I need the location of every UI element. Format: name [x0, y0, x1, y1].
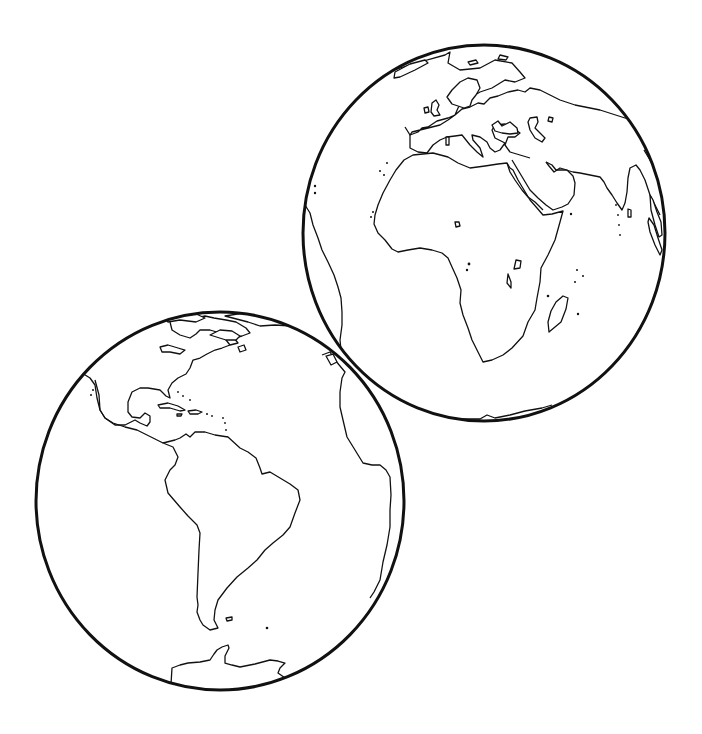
island-dot	[617, 214, 619, 216]
aral-sea-outline	[548, 117, 553, 122]
island-dot	[370, 216, 372, 218]
island-dot	[582, 275, 584, 277]
island-dot	[92, 389, 94, 391]
island-dot	[577, 313, 579, 315]
island-dot	[189, 399, 191, 401]
island-dot	[206, 413, 208, 415]
island-dot	[619, 234, 621, 236]
lake-victoria	[514, 260, 521, 269]
newfoundland-outline	[238, 345, 246, 352]
island-dot	[314, 185, 316, 187]
island-dot	[372, 211, 374, 213]
island-dot	[182, 395, 184, 397]
island-dot	[177, 391, 179, 393]
island-dot	[618, 224, 620, 226]
island-dot	[547, 295, 550, 298]
island-dot	[570, 213, 572, 215]
globes-illustration	[0, 0, 702, 734]
eastern-hemisphere-globe	[300, 40, 700, 421]
island-dot	[379, 170, 381, 172]
island-dot	[615, 204, 617, 206]
island-dot	[222, 417, 224, 419]
jamaica-outline	[177, 414, 182, 416]
island-dot	[468, 263, 471, 266]
island-dot	[386, 162, 388, 164]
island-dot	[466, 269, 468, 271]
island-dot	[576, 269, 578, 271]
island-dot	[225, 429, 227, 431]
sri-lanka-outline	[628, 209, 631, 217]
island-dot	[383, 174, 385, 176]
island-dot	[574, 281, 576, 283]
island-dot	[211, 415, 213, 417]
sardinia-outline	[446, 137, 449, 145]
falkland-islands-outline	[226, 617, 232, 621]
western-hemisphere-globe	[36, 312, 404, 700]
island-dot	[314, 192, 316, 194]
island-dot	[266, 627, 269, 630]
island-dot	[224, 422, 226, 424]
ireland-outline	[424, 107, 429, 113]
lake-chad	[455, 222, 460, 227]
island-dot	[90, 394, 92, 396]
